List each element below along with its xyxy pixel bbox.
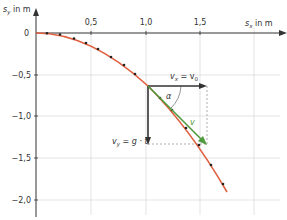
velocity-arrow	[148, 86, 202, 140]
grid	[36, 28, 280, 215]
velocity-label: v	[190, 118, 195, 127]
x-tick-label: 1,5	[194, 18, 207, 27]
projectile-diagram: sy in m sx in m 0,5 1,0 1,5 0 −0,5 −1,0 …	[0, 0, 287, 220]
y-tick-label: 0	[24, 29, 29, 38]
y-tick-label: −1,0	[12, 112, 31, 121]
y-tick-label: −1,5	[12, 154, 31, 163]
y-tick-label: −2,0	[12, 196, 31, 205]
trajectory-points	[46, 32, 225, 185]
y-axis-label: sy in m	[3, 5, 31, 16]
vy-label: vy = g · t	[112, 137, 148, 148]
x-tick-label: 1,0	[140, 18, 153, 27]
vx-label: vx = v0	[170, 72, 199, 82]
axes	[36, 12, 282, 217]
y-axis-arrow-icon	[33, 8, 39, 16]
x-axis-arrow-icon	[279, 30, 287, 36]
angle-label: α	[166, 92, 172, 101]
angle-arc	[171, 86, 181, 108]
y-tick-label: −0,5	[12, 71, 31, 80]
vx-arrowhead-icon	[199, 83, 207, 89]
x-tick-label: 0,5	[85, 18, 98, 27]
trajectory-curve	[36, 33, 227, 192]
x-axis-label: sx in m	[245, 19, 273, 29]
